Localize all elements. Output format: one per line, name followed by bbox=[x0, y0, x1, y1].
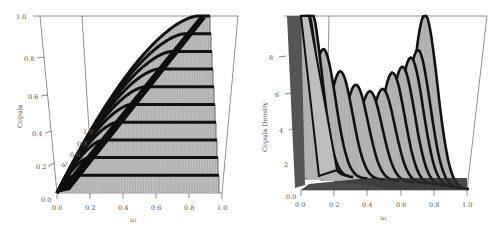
y-tick-8: 8 bbox=[269, 54, 273, 62]
x-axis-title: u₁ bbox=[380, 214, 387, 222]
x-tick-0.4: 0.4 bbox=[362, 201, 372, 209]
depth-tick-0.8: 0.8 bbox=[77, 140, 87, 148]
y-axis-title: Copula Density bbox=[261, 101, 269, 152]
depth-tick-0.6: 0.6 bbox=[70, 151, 80, 159]
copula-surface-plot: 1.0 0.8 0.6 0.4 0.2 0.0 0.0 0.2 0.4 0.6 … bbox=[0, 0, 249, 238]
y-tick-0.4: 0.4 bbox=[32, 130, 42, 138]
y-tick-4: 4 bbox=[279, 127, 283, 135]
y-axis-title: Copula bbox=[16, 105, 24, 128]
copula-density-surface-plot: 8 6 4 2 0.0 0.0 0.2 0.4 0.6 0.8 1.0 u₁ C… bbox=[249, 0, 498, 238]
copula-ribbons bbox=[57, 16, 219, 193]
origin-label: 0.0 bbox=[286, 193, 296, 201]
y-tick-0.8: 0.8 bbox=[24, 55, 34, 63]
ribbon-mesh bbox=[57, 175, 219, 193]
y-tick-6: 6 bbox=[275, 91, 279, 99]
copula-panel: 1.0 0.8 0.6 0.4 0.2 0.0 0.0 0.2 0.4 0.6 … bbox=[0, 0, 249, 238]
x-tick-0.4: 0.4 bbox=[118, 204, 128, 212]
x-tick-1.0: 1.0 bbox=[217, 204, 227, 212]
x-tick-0.8: 0.8 bbox=[429, 201, 439, 209]
y-tick-0.2: 0.2 bbox=[36, 163, 46, 171]
x-tick-0.0: 0.0 bbox=[295, 201, 305, 209]
depth-tick-1.0: 1.0 bbox=[83, 128, 93, 136]
x-tick-0.6: 0.6 bbox=[151, 204, 161, 212]
y-tick-2: 2 bbox=[284, 161, 288, 169]
x-tick-0.2: 0.2 bbox=[85, 204, 95, 212]
x-tick-0.2: 0.2 bbox=[329, 201, 339, 209]
x-tick-0.6: 0.6 bbox=[396, 201, 406, 209]
x-axis-title: u₁ bbox=[130, 216, 137, 224]
origin-label: 0.0 bbox=[41, 196, 51, 204]
y-tick-1.0: 1.0 bbox=[16, 13, 26, 21]
density-ribbons bbox=[287, 16, 469, 190]
x-tick-0.8: 0.8 bbox=[184, 204, 194, 212]
copula-density-panel: 8 6 4 2 0.0 0.0 0.2 0.4 0.6 0.8 1.0 u₁ C… bbox=[249, 0, 498, 238]
x-tick-1.0: 1.0 bbox=[462, 201, 472, 209]
y-tick-0.6: 0.6 bbox=[28, 93, 38, 101]
x-tick-0.0: 0.0 bbox=[52, 204, 62, 212]
